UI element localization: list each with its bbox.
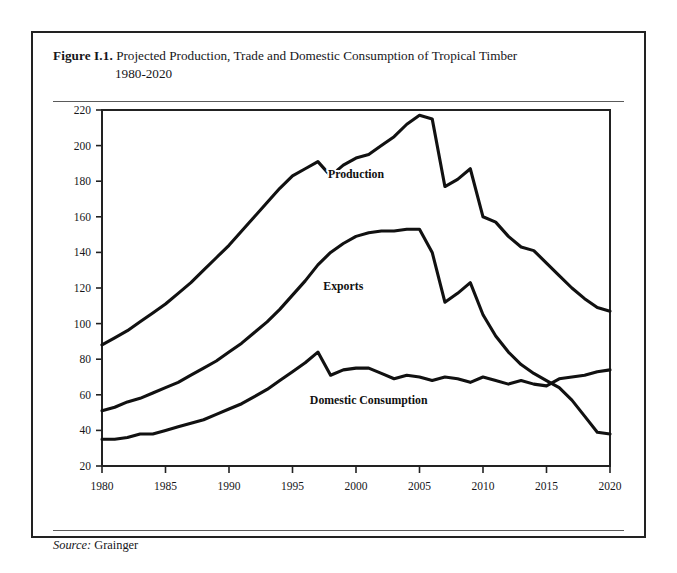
series-line-production	[102, 115, 610, 345]
chart-plot-area: 20406080100120140160180200220 1980198519…	[33, 33, 648, 540]
x-tick-label: 2010	[472, 480, 495, 492]
x-axis-tick-labels: 198019851990199520002005201020152020	[91, 480, 622, 492]
y-tick-label: 100	[74, 318, 92, 330]
x-tick-label: 2005	[408, 480, 431, 492]
y-tick-label: 60	[80, 389, 92, 401]
x-tick-label: 1980	[91, 480, 114, 492]
y-tick-label: 120	[74, 282, 92, 294]
source-divider	[53, 530, 624, 531]
y-axis-tick-labels: 20406080100120140160180200220	[74, 104, 92, 472]
y-tick-label: 140	[74, 246, 92, 258]
series-label-exports: Exports	[323, 279, 363, 293]
source-label: Source:	[53, 538, 91, 552]
y-tick-label: 40	[80, 424, 92, 436]
y-tick-label: 160	[74, 211, 92, 223]
chart-series-lines	[102, 115, 610, 439]
source-value: Grainger	[94, 538, 138, 552]
series-label-production: Production	[328, 167, 385, 181]
x-tick-label: 1990	[218, 480, 241, 492]
x-tick-label: 2015	[535, 480, 558, 492]
y-tick-label: 220	[74, 104, 92, 116]
series-label-domestic-consumption: Domestic Consumption	[310, 393, 428, 407]
x-tick-label: 1995	[281, 480, 304, 492]
source-note: Source: Grainger	[53, 538, 138, 553]
x-tick-label: 2020	[599, 480, 622, 492]
x-tick-label: 2000	[345, 480, 368, 492]
page-canvas: Figure I.1. Projected Production, Trade …	[0, 0, 677, 573]
x-tick-label: 1985	[154, 480, 177, 492]
y-tick-label: 180	[74, 175, 92, 187]
y-tick-label: 200	[74, 140, 92, 152]
y-tick-label: 20	[80, 460, 92, 472]
line-chart-svg: 20406080100120140160180200220 1980198519…	[33, 33, 648, 540]
y-tick-label: 80	[80, 353, 92, 365]
figure-frame: Figure I.1. Projected Production, Trade …	[31, 31, 646, 538]
